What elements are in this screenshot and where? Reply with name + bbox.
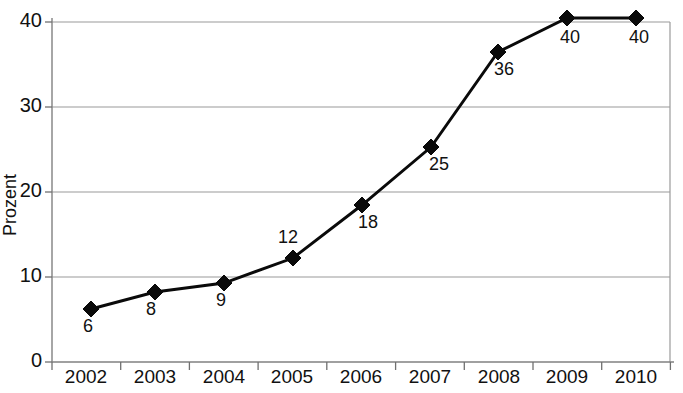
ytick-label-10: 10 — [20, 264, 42, 286]
data-label-2006: 18 — [358, 212, 378, 232]
y-axis-title: Prozent — [0, 174, 20, 236]
data-label-2003: 8 — [146, 299, 156, 319]
data-label-2007: 25 — [429, 154, 449, 174]
xtick-label-2006: 2006 — [340, 366, 382, 387]
x-axis-tick-labels: 2002 2003 2004 2005 2006 2007 2008 2009 … — [65, 366, 657, 387]
data-point-2009[interactable] — [559, 10, 575, 26]
line-chart: Prozent 40 30 20 10 0 — [0, 0, 683, 393]
xtick-label-2004: 2004 — [203, 366, 246, 387]
xtick-label-2010: 2010 — [615, 366, 657, 387]
data-label-2005: 12 — [278, 227, 298, 247]
ytick-label-30: 30 — [20, 94, 42, 116]
xtick-label-2009: 2009 — [546, 366, 588, 387]
data-label-2004: 9 — [216, 290, 226, 310]
xtick-label-2002: 2002 — [65, 366, 107, 387]
data-point-2002[interactable] — [83, 301, 99, 317]
y-axis-tick-labels: 40 30 20 10 0 — [20, 9, 42, 371]
series-line-prozent — [91, 18, 636, 309]
xtick-label-2003: 2003 — [134, 366, 176, 387]
ytick-label-20: 20 — [20, 179, 42, 201]
data-label-2010: 40 — [629, 27, 649, 47]
xtick-label-2007: 2007 — [409, 366, 451, 387]
data-label-2009: 40 — [560, 27, 580, 47]
ytick-label-0: 0 — [31, 349, 42, 371]
data-point-markers — [83, 10, 644, 317]
data-label-2008: 36 — [494, 59, 514, 79]
xtick-label-2008: 2008 — [478, 366, 520, 387]
xtick-label-2005: 2005 — [271, 366, 313, 387]
data-point-2010[interactable] — [628, 10, 644, 26]
y-axis-ticks — [45, 22, 52, 362]
data-label-2002: 6 — [83, 316, 93, 336]
gridlines — [52, 22, 670, 277]
ytick-label-40: 40 — [20, 9, 42, 31]
chart-container: Prozent 40 30 20 10 0 — [0, 0, 683, 393]
data-point-2003[interactable] — [147, 284, 163, 300]
